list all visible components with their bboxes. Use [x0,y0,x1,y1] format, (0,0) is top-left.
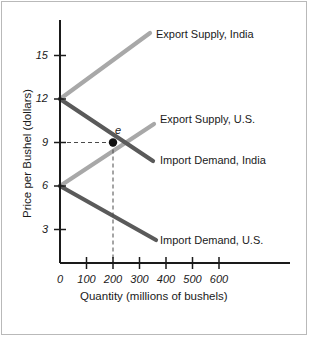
equilibrium-point-label: e [115,125,121,136]
series-label-export-supply-us: Export Supply, U.S. [160,114,255,125]
series-label-import-demand-us: Import Demand, U.S. [160,235,263,246]
x-axis-title: Quantity (millions of bushels) [80,291,228,303]
x-tick-label-0: 0 [50,274,70,285]
x-tick-label-600: 600 [205,274,234,285]
x-tick-label-300: 300 [125,274,154,285]
y-axis-title: Price per Bushel (dollars) [22,89,34,218]
x-tick-label-100: 100 [72,274,101,285]
chart-plot-area [0,0,327,337]
figure-container: 15 12 9 6 3 0 100 200 300 400 500 600 Pr… [0,0,327,337]
x-tick-label-200: 200 [99,274,128,285]
y-tick-label-15: 15 [28,50,48,61]
x-tick-label-500: 500 [178,274,207,285]
series-line-export-supply-us [60,124,154,186]
series-line-import-demand-us [60,186,156,240]
series-line-import-demand-india [60,99,153,161]
series-label-import-demand-india: Import Demand, India [160,155,266,166]
y-tick-label-3: 3 [28,224,48,235]
equilibrium-point-marker [109,138,117,146]
series-label-export-supply-india: Export Supply, India [156,29,254,40]
x-tick-label-400: 400 [152,274,181,285]
series-line-export-supply-india [60,33,150,99]
